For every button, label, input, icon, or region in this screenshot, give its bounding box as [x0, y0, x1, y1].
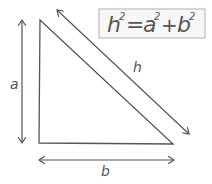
side-b-label: b [101, 163, 110, 179]
formula-plus: + [161, 13, 178, 37]
side-a-label: a [10, 76, 19, 92]
formula-a-exp: 2 [154, 11, 160, 22]
right-triangle [39, 20, 173, 144]
hypotenuse-label: h [133, 59, 142, 75]
formula-box: h 2 = a 2 + b 2 [99, 9, 205, 38]
formula-b-exp: 2 [189, 11, 195, 22]
formula-h-exp: 2 [119, 11, 125, 22]
formula-equals: = [126, 12, 144, 37]
triangle-diagram: h 2 = a 2 + b 2 a b h [0, 0, 212, 184]
